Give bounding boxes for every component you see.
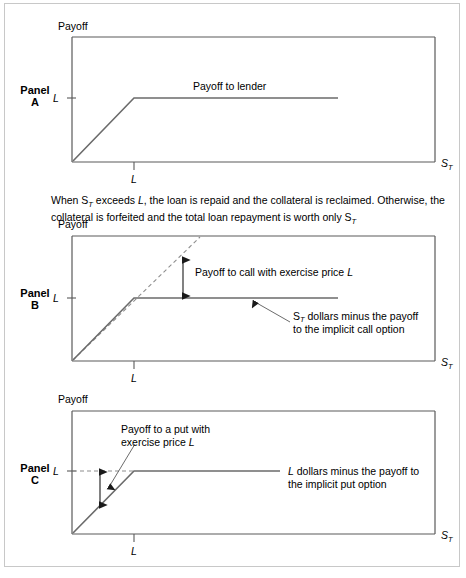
panel-a-x-axis-label: S — [441, 157, 448, 169]
panel-b-flat-line-leader — [255, 302, 290, 322]
panel-c-put-payoff-label-line2: exercise price L — [121, 436, 195, 448]
panel-a-label-line1: Panel — [13, 84, 57, 96]
panel-b-x-tick-label: L — [131, 372, 137, 384]
panel-b-label: Panel B — [13, 287, 57, 311]
panel-c: Panel C Payoff L L S T — [5, 389, 461, 564]
panel-c-flat-line-note-line2: the implicit put option — [288, 478, 387, 490]
panel-b-label-line2: B — [13, 299, 57, 311]
caption-part-b: exceeds — [93, 194, 138, 206]
panel-c-payoff-curve — [73, 471, 280, 533]
figure-frame: Panel A Payoff L L S T Payoff to lender — [4, 3, 460, 567]
panel-a-x-tick-label: L — [131, 173, 137, 185]
panel-a-y-axis-label: Payoff — [58, 20, 88, 32]
caption-part-a: When S — [51, 194, 88, 206]
panel-a-payoff-curve — [73, 98, 338, 161]
panel-b-call-payoff-label: Payoff to call with exercise price L — [195, 266, 353, 278]
panel-a-plot: Payoff L L S T Payoff to lender — [5, 18, 461, 193]
panel-b-x-axis-label: S — [441, 356, 448, 368]
panel-c-put-payoff-label-line1: Payoff to a put with — [121, 423, 210, 435]
panel-b-label-line1: Panel — [13, 287, 57, 299]
panel-c-x-axis-label: S — [441, 529, 448, 541]
panel-a-x-axis-label-sub: T — [448, 163, 454, 172]
panel-c-label: Panel C — [13, 462, 57, 486]
panel-c-x-axis-label-sub: T — [448, 535, 454, 544]
panel-b: Panel B Payoff L L — [5, 214, 461, 389]
panel-c-put-label-leader — [109, 444, 135, 487]
panel-a: Panel A Payoff L L S T Payoff to lender — [5, 18, 461, 193]
panel-c-x-tick-label: L — [131, 545, 137, 557]
panel-b-flat-line-note-line2: to the implicit call option — [293, 323, 405, 335]
panel-a-label-line2: A — [13, 96, 57, 108]
panel-a-payoff-to-lender-label: Payoff to lender — [193, 80, 267, 92]
panel-c-flat-line-note-line1: L dollars minus the payoff to — [288, 465, 419, 477]
panel-c-plot: Payoff L L S T Payoff to a put with exer… — [5, 389, 461, 567]
panel-b-x-axis-label-sub: T — [448, 362, 454, 371]
panel-c-y-axis-label: Payoff — [58, 393, 88, 405]
caption-part-d: , the loan is repaid and the collateral … — [144, 194, 428, 206]
panel-b-y-axis-label: Payoff — [58, 218, 88, 230]
panel-b-plot: Payoff L L S T Payoff to call with exerc… — [5, 214, 461, 389]
panel-c-label-line1: Panel — [13, 462, 57, 474]
panel-a-label: Panel A — [13, 84, 57, 108]
panel-b-flat-line-note-line1: ST dollars minus the payoff — [293, 310, 418, 324]
panel-c-label-line2: C — [13, 474, 57, 486]
